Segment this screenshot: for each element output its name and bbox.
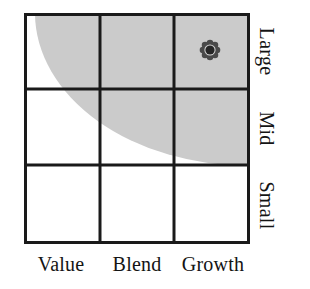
size-axis-label-small: Small	[252, 167, 282, 244]
style-axis-label-value: Value	[23, 249, 99, 281]
style-axis-label-growth: Growth	[175, 249, 251, 281]
style-axis-label-blend: Blend	[99, 249, 175, 281]
size-axis: Large Mid Small	[252, 13, 282, 244]
style-box-grid[interactable]	[24, 13, 250, 244]
equity-style-box-figure: Large Mid Small Value Blend Growth	[0, 0, 310, 289]
style-box-grid-svg	[24, 13, 250, 244]
style-axis: Value Blend Growth	[24, 249, 250, 281]
size-axis-label-mid: Mid	[252, 90, 282, 167]
size-axis-label-large: Large	[252, 13, 282, 90]
style-marker-core	[205, 45, 214, 54]
style-marker[interactable]	[200, 40, 221, 61]
